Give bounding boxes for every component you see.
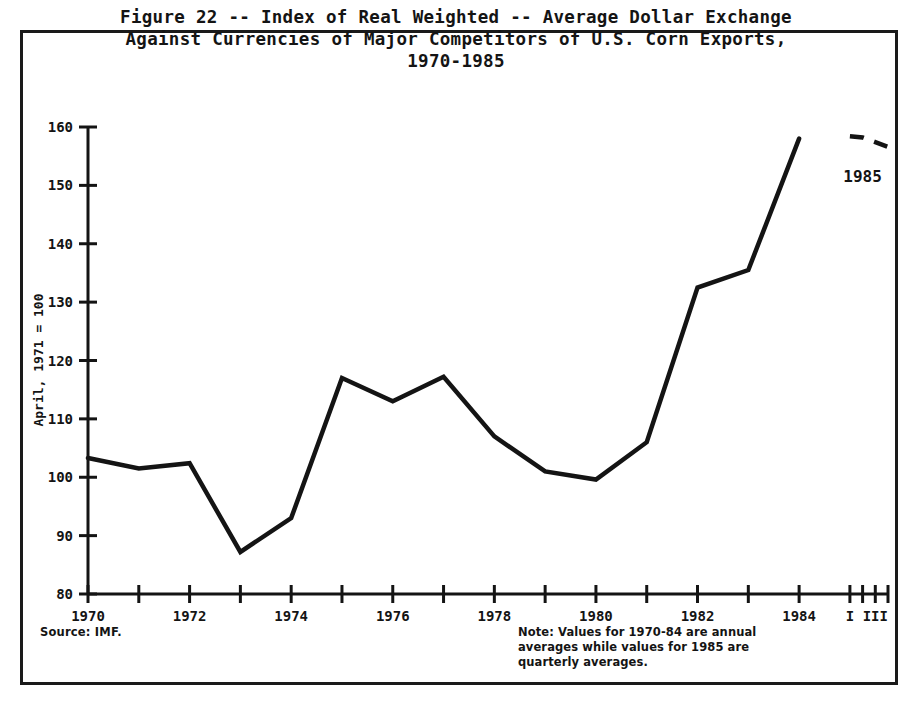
footnote-note: Note: Values for 1970-84 are annual aver… — [518, 625, 848, 670]
y-tick-label: 120 — [48, 353, 73, 369]
x-tick-label: 1974 — [274, 608, 308, 624]
x-tick-label: 1976 — [376, 608, 410, 624]
axis-lines — [88, 127, 888, 594]
x-tick-label: I — [846, 608, 854, 624]
series-line-annual — [88, 139, 799, 552]
source-note: Source: IMF. — [40, 625, 122, 639]
y-tick-label: 90 — [56, 528, 73, 544]
y-axis-tick-labels: 8090100110120130140150160 — [48, 119, 73, 602]
x-tick-label: 1978 — [477, 608, 511, 624]
y-tick-label: 140 — [48, 236, 73, 252]
x-tick-label: 1984 — [782, 608, 816, 624]
y-tick-label: 80 — [56, 586, 73, 602]
footnote-line-1: Note: Values for 1970-84 are annual — [518, 625, 848, 640]
footnote-line-3: quarterly averages. — [518, 655, 848, 670]
chart-plot: 8090100110120130140150160 19701972197419… — [0, 0, 912, 710]
x-axis-tick-labels: 19701972197419761978198019821984IIII — [71, 608, 888, 624]
y-tick-label: 110 — [48, 411, 73, 427]
y-tick-label: 100 — [48, 469, 73, 485]
series-line-1985-quarterly — [850, 136, 888, 147]
y-axis-title: April, 1971 = 100 — [31, 293, 46, 426]
x-tick-label: III — [863, 608, 888, 624]
series-annotation-1985: 1985 — [843, 167, 882, 186]
footnote-line-2: averages while values for 1985 are — [518, 640, 848, 655]
y-tick-label: 160 — [48, 119, 73, 135]
x-tick-label: 1970 — [71, 608, 105, 624]
y-tick-label: 130 — [48, 294, 73, 310]
y-tick-label: 150 — [48, 177, 73, 193]
x-tick-label: 1972 — [173, 608, 207, 624]
x-tick-label: 1982 — [681, 608, 715, 624]
x-tick-label: 1980 — [579, 608, 613, 624]
